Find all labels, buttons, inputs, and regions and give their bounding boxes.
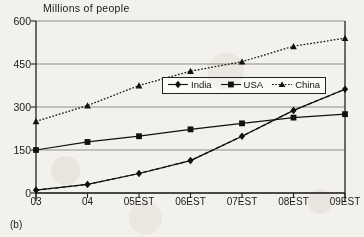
legend-label-china: China: [295, 80, 320, 90]
legend-item-usa: USA: [221, 80, 264, 90]
triangle-marker-icon: [272, 80, 292, 89]
x-tick-label: 04: [82, 196, 93, 207]
figure-caption: (b): [10, 219, 22, 230]
data-series: [33, 35, 349, 194]
diamond-marker-icon: [168, 80, 188, 89]
chart-figure: Millions of people 600 450 300 150 0 030…: [0, 0, 364, 237]
legend-item-china: China: [272, 80, 320, 90]
x-tick-label: 06EST: [175, 196, 206, 207]
legend-item-india: India: [168, 80, 212, 90]
x-tick-label: 03: [30, 196, 41, 207]
x-tick-label: 09EST: [330, 196, 361, 207]
x-tick-label: 05EST: [124, 196, 155, 207]
axis-lines: [31, 21, 345, 201]
chart-legend: India USA China: [162, 77, 326, 94]
x-tick-label: 07EST: [227, 196, 258, 207]
x-tick-label: 08EST: [278, 196, 309, 207]
legend-label-india: India: [191, 80, 212, 90]
square-marker-icon: [221, 80, 241, 89]
legend-label-usa: USA: [244, 80, 264, 90]
